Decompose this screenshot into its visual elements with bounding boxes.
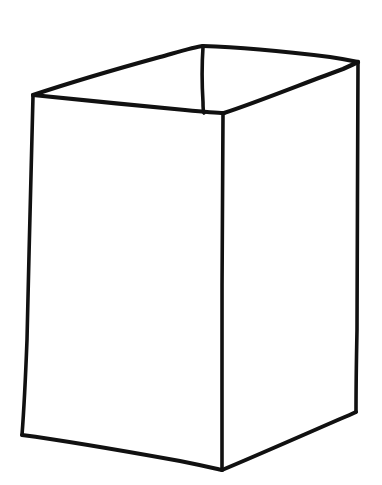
canvas-background: [0, 0, 382, 485]
center-vertical-edge: [222, 114, 223, 470]
inner-back-vertical-edge: [202, 47, 204, 113]
box-sketch: [0, 0, 382, 485]
right-vertical-edge: [356, 63, 358, 412]
drawing-canvas: [0, 0, 382, 485]
